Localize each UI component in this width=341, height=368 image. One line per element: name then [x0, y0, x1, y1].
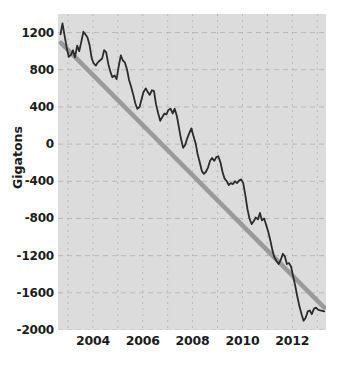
- chart-figure: Gigatons 12008004000-400-800-1200-1600-2…: [0, 0, 341, 368]
- series-line: [61, 43, 324, 308]
- x-axis-tick-label: 2012: [269, 333, 315, 348]
- x-axis-tick-label: 2006: [120, 333, 166, 348]
- y-axis-tick-labels: 12008004000-400-800-1200-1600-2000: [0, 14, 54, 330]
- y-axis-tick-label: -1200: [0, 250, 54, 262]
- x-axis-tick-label: 2004: [70, 333, 116, 348]
- x-axis-tick-label: 2010: [219, 333, 265, 348]
- y-axis-tick-label: 400: [0, 101, 54, 113]
- y-axis-tick-label: -400: [0, 175, 54, 187]
- x-axis-tick-label: 2008: [170, 333, 216, 348]
- y-axis-tick-label: -2000: [0, 324, 54, 336]
- y-axis-tick-label: -1600: [0, 287, 54, 299]
- x-axis-tick-labels: 20042006200820102012: [58, 333, 326, 353]
- plot-area: [58, 14, 326, 330]
- y-axis-tick-label: 800: [0, 64, 54, 76]
- y-axis-tick-label: 1200: [0, 27, 54, 39]
- y-axis-tick-label: 0: [0, 138, 54, 150]
- data-series-layer: [58, 14, 326, 330]
- y-axis-tick-label: -800: [0, 212, 54, 224]
